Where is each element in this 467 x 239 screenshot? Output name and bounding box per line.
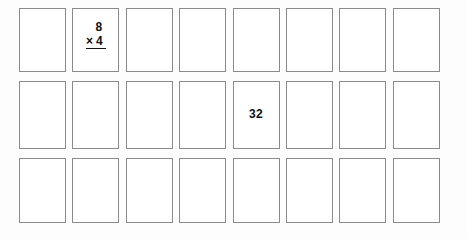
factor-bottom-row: ×4 bbox=[86, 34, 106, 50]
multiplication-expression: 8 ×4 bbox=[86, 21, 106, 49]
flashcard-r2c2[interactable] bbox=[72, 81, 119, 149]
flashcard-r2c3[interactable] bbox=[126, 81, 173, 149]
flashcard-r2c4[interactable] bbox=[179, 81, 226, 149]
flashcard-r2c7[interactable] bbox=[339, 81, 386, 149]
multiply-icon: × bbox=[86, 34, 96, 48]
flashcard-r1c2-problem[interactable]: 8 ×4 bbox=[72, 8, 119, 72]
flashcard-r1c6[interactable] bbox=[286, 8, 333, 72]
flashcard-worksheet: 8 ×4 32 bbox=[0, 0, 467, 239]
flashcard-r3c6[interactable] bbox=[286, 158, 333, 223]
flashcard-r1c7[interactable] bbox=[339, 8, 386, 72]
factor-bottom: 4 bbox=[96, 34, 103, 48]
flashcard-r3c8[interactable] bbox=[393, 158, 440, 223]
flashcard-r1c3[interactable] bbox=[126, 8, 173, 72]
flashcard-r3c1[interactable] bbox=[19, 158, 66, 223]
flashcard-r1c5[interactable] bbox=[233, 8, 280, 72]
flashcard-r3c2[interactable] bbox=[72, 158, 119, 223]
flashcard-r2c8[interactable] bbox=[393, 81, 440, 149]
factor-top: 8 bbox=[86, 21, 106, 34]
flashcard-r1c8[interactable] bbox=[393, 8, 440, 72]
flashcard-r3c5[interactable] bbox=[233, 158, 280, 223]
flashcard-r2c1[interactable] bbox=[19, 81, 66, 149]
flashcard-r3c3[interactable] bbox=[126, 158, 173, 223]
flashcard-r1c1[interactable] bbox=[19, 8, 66, 72]
flashcard-r2c6[interactable] bbox=[286, 81, 333, 149]
answer-value: 32 bbox=[249, 107, 263, 121]
flashcard-r3c7[interactable] bbox=[339, 158, 386, 223]
flashcard-r3c4[interactable] bbox=[179, 158, 226, 223]
flashcard-grid: 8 ×4 32 bbox=[19, 8, 440, 223]
flashcard-r2c5-answer[interactable]: 32 bbox=[233, 81, 280, 149]
flashcard-r1c4[interactable] bbox=[179, 8, 226, 72]
